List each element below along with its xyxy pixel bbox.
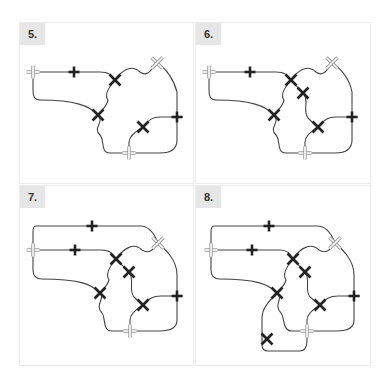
plus-icon	[172, 112, 183, 123]
plus-icon	[69, 67, 80, 78]
x-icon	[93, 110, 104, 121]
hollow-plus-icon	[27, 66, 40, 79]
x-icon	[138, 300, 149, 311]
hollow-plus-icon	[299, 147, 312, 160]
plus-icon	[87, 221, 98, 232]
panel-5-tracks	[27, 63, 183, 153]
track-diagrams	[0, 0, 389, 381]
plus-icon	[247, 245, 258, 256]
plus-icon	[349, 291, 360, 302]
plus-icon	[245, 67, 256, 78]
hollow-plus-icon	[301, 325, 314, 338]
x-icon	[286, 75, 297, 86]
hollow-x-icon	[153, 238, 164, 249]
plus-icon	[347, 112, 358, 123]
hollow-x-icon	[330, 238, 341, 249]
markers	[27, 58, 360, 345]
x-icon	[272, 288, 283, 299]
x-icon	[110, 75, 121, 86]
x-icon	[315, 300, 326, 311]
x-icon	[95, 288, 106, 299]
hollow-plus-icon	[27, 244, 40, 257]
x-icon	[288, 254, 299, 265]
x-icon	[262, 334, 273, 345]
hollow-x-icon	[327, 58, 338, 69]
x-icon	[298, 88, 309, 99]
plus-icon	[264, 221, 275, 232]
plus-icon	[70, 245, 81, 256]
x-icon	[300, 267, 311, 278]
x-icon	[124, 267, 135, 278]
x-icon	[313, 122, 324, 133]
x-icon	[269, 110, 280, 121]
hollow-plus-icon	[203, 66, 216, 79]
hollow-x-icon	[152, 58, 163, 69]
x-icon	[111, 254, 122, 265]
x-icon	[138, 122, 149, 133]
hollow-plus-icon	[124, 325, 137, 338]
plus-icon	[172, 291, 183, 302]
hollow-plus-icon	[123, 147, 136, 160]
panel-6-tracks	[203, 63, 358, 153]
hollow-plus-icon	[205, 244, 218, 257]
